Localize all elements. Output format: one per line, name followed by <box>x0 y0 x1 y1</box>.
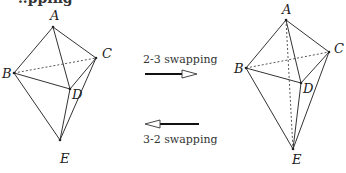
vertex-label-B: B <box>233 61 244 76</box>
edge-BC-hidden <box>14 58 96 73</box>
edge-BE <box>14 73 60 140</box>
vertex-label-A: A <box>49 8 59 23</box>
arrow-right-icon <box>182 70 197 78</box>
vertex-label-B: B <box>1 66 12 81</box>
vertex-label-E: E <box>59 151 70 166</box>
edge-BE <box>246 68 293 149</box>
edge-swap-diagram: ..pping A B C D E 2-3 swapping 3-2 swapp… <box>0 0 346 173</box>
vertex-label-A: A <box>281 2 291 17</box>
vertex-label-C: C <box>102 46 112 61</box>
vertex-label-E: E <box>291 152 302 167</box>
edge-AE-hidden <box>286 20 293 149</box>
right-tetrahedra-figure: A B C D E <box>233 2 344 167</box>
forward-swap-arrow: 2-3 swapping <box>143 53 218 78</box>
edge-DE <box>60 89 70 140</box>
vertex-label-D: D <box>302 81 314 96</box>
edge-BD <box>14 73 70 89</box>
edge-AC <box>53 27 96 58</box>
left-tetrahedra-figure: A B C D E <box>1 8 112 166</box>
vertex-label-C: C <box>334 41 344 56</box>
edge-CD <box>70 58 96 89</box>
backward-swap-label: 3-2 swapping <box>143 133 218 146</box>
forward-swap-label: 2-3 swapping <box>143 53 218 66</box>
edge-AD <box>53 27 70 89</box>
vertex-label-D: D <box>71 87 83 102</box>
header-cut-text: ..pping <box>18 0 73 6</box>
arrow-left-icon <box>145 120 160 128</box>
backward-swap-arrow: 3-2 swapping <box>143 120 218 146</box>
edge-BD <box>246 68 301 83</box>
edge-AB <box>14 27 53 73</box>
edge-AB <box>246 20 286 68</box>
